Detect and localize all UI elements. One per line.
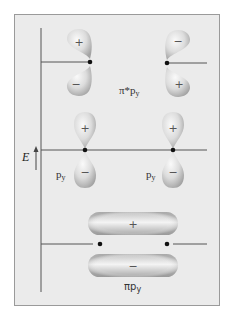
energy-arrow-icon	[34, 146, 39, 170]
pi-bonding-level	[41, 212, 207, 277]
phase-sign: −	[80, 167, 89, 178]
atomic-p-level	[41, 112, 207, 188]
nucleus-dot	[98, 242, 103, 247]
phase-sign: −	[168, 167, 177, 178]
nucleus-dot	[83, 148, 88, 153]
phase-sign: −	[71, 79, 80, 90]
nucleus-dot	[165, 61, 170, 66]
phase-sign: +	[168, 123, 177, 134]
nucleus-dot	[88, 60, 93, 65]
p-left-label: py	[56, 168, 66, 182]
pi-bonding-label: πpy	[124, 281, 141, 294]
phase-sign: −	[173, 36, 182, 47]
phase-sign: +	[174, 79, 183, 90]
phase-sign: +	[80, 123, 89, 134]
nucleus-dot	[165, 242, 170, 247]
energy-axis-label: E	[22, 150, 29, 165]
nucleus-dot	[171, 148, 176, 153]
p-right-label: py	[146, 168, 156, 182]
pi-star-label: π*py	[119, 84, 140, 98]
mo-diagram	[0, 0, 235, 328]
phase-sign: −	[128, 261, 137, 272]
phase-sign: +	[74, 37, 83, 48]
phase-sign: +	[128, 219, 137, 230]
